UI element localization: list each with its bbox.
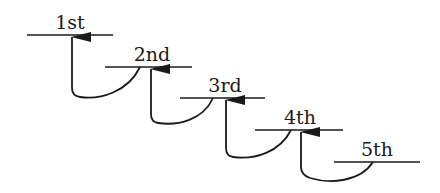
step-label-5th: 5th — [361, 138, 393, 160]
step-2nd: 2nd — [105, 43, 192, 67]
arrow-4th-to-3rd-icon — [226, 100, 291, 158]
step-label-3rd: 3rd — [208, 74, 241, 96]
ordinal-steps-diagram: 1st 2nd 3rd 4th 5th — [0, 0, 440, 193]
step-5th: 5th — [334, 138, 420, 162]
step-4th: 4th — [255, 106, 343, 130]
step-1st: 1st — [27, 11, 113, 35]
step-3rd: 3rd — [180, 74, 265, 98]
arrow-3rd-to-2nd-icon — [151, 69, 213, 124]
step-label-1st: 1st — [55, 11, 85, 33]
step-label-2nd: 2nd — [134, 43, 171, 65]
step-label-4th: 4th — [284, 106, 316, 128]
